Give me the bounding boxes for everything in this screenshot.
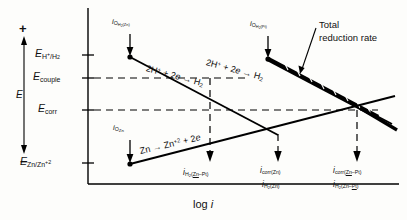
rxn-cath-zn-arrow: → — [182, 73, 193, 85]
bottom-label-i-corr-zn-pt: icorr(Zn–Pt) — [333, 166, 362, 175]
e-couple-sub: couple — [40, 76, 60, 83]
exchange-current-label-zn: iOZn — [113, 124, 124, 134]
lbl0-paren-close: ) — [207, 171, 209, 177]
e-symbol: E — [35, 47, 42, 59]
arrow-drop-corr-zn — [274, 151, 281, 162]
e-axis-label: E — [16, 90, 23, 100]
x-axis-label: log i — [193, 199, 213, 210]
annotation-total-reduction-rate-line1: Total — [319, 20, 339, 30]
rxn-anod-arrow: → — [151, 141, 162, 153]
rxn-anod-right-sup: +2 — [173, 137, 181, 144]
e-axis-positive-sign: + — [19, 22, 27, 35]
e-corr-sub: corr — [45, 108, 57, 115]
lbl2-sub-post: (Zn) — [270, 183, 280, 189]
potential-label-e-corr: Ecorr — [38, 103, 57, 115]
e-h-h2-sub-post-sub: 2 — [57, 54, 60, 60]
bottom-label-i-h2-zn-pt: iH2(Zn–Pt) — [333, 180, 359, 190]
potential-label-e-couple: Ecouple — [33, 71, 60, 83]
lbl4-sub-close: ) — [357, 183, 359, 189]
x-axis-label-prefix: log — [193, 198, 208, 210]
bottom-label-i-corr-zn: icorr(Zn) — [260, 166, 281, 175]
e-symbol: E — [33, 70, 40, 82]
figure-canvas: + − E EH+/H2 Ecouple Ecorr EZn/Zn+2 iOH2… — [0, 0, 407, 220]
rxn-cath-zn-left-sup: + — [157, 67, 162, 74]
lbl3-sub-pre: corr( — [335, 169, 346, 175]
e-axis-arrow-down — [21, 145, 27, 154]
rxn-cath-pt-arrow: → — [242, 67, 253, 79]
exchange-current-label-h2-zn: iOH2(Zn) — [112, 18, 130, 28]
lbl1-sub: corr(Zn) — [262, 169, 281, 175]
rxn-cath-zn-electron: e — [174, 71, 181, 82]
io-h2-zn-subsub-post: (Zn) — [122, 22, 129, 27]
arrow-drop-corr-zn-pt — [353, 151, 360, 162]
x-axis-label-symbol: i — [211, 198, 213, 210]
potential-label-e-zn-zn2: EZn/Zn+2 — [20, 156, 51, 168]
arrow-drop-h2-zn-pt-left — [206, 151, 213, 162]
e-symbol: E — [20, 155, 27, 167]
bottom-label-i-h2-zn: iH2(Zn) — [262, 180, 280, 190]
lbl3-sub-post: –Pt) — [352, 169, 362, 175]
arrow-io-h2-zn-head — [127, 47, 134, 56]
exchange-current-label-h2-pt: iOH2(Pt) — [250, 20, 267, 30]
io-h2-pt-subsub-post: (Pt) — [260, 24, 266, 29]
total-reduction-rate-leader-head — [299, 66, 305, 75]
arrow-io-h2-pt-head — [265, 49, 272, 58]
e-zn-zn2-sub-pre: Zn/Zn — [27, 161, 45, 168]
potential-label-e-h-h2: EH+/H2 — [35, 48, 60, 60]
bottom-label-i-h2-zn-pt-left: iH2(Zn–Pt) — [183, 168, 209, 178]
lbl0-sub-dash: –Pt — [199, 171, 207, 177]
lbl4-sub-paren: (Zn– — [341, 183, 352, 189]
io-zn-subsub: Zn — [119, 128, 124, 133]
e-h-h2-sub-post: /H — [50, 53, 57, 60]
e-symbol: E — [38, 102, 45, 114]
e-axis-arrow-up — [21, 36, 27, 45]
total-reduction-rate-tail — [360, 108, 397, 130]
rxn-cath-pt-electron: e — [234, 65, 241, 76]
annotation-total-reduction-rate-line2: reduction rate — [319, 33, 377, 43]
total-reduction-rate-leader — [302, 28, 316, 69]
rxn-cath-pt-left-sup: + — [217, 61, 222, 68]
e-zn-zn2-sub-sup: +2 — [45, 159, 51, 165]
arrow-io-zn-head — [127, 154, 134, 163]
